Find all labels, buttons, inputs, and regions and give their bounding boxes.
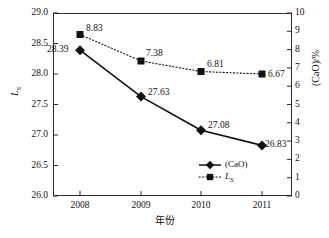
y-right-axis-title: (CaO)/% [311,50,321,86]
legend-label-ls-sub: S [230,175,234,183]
y-left-axis-title-sub: S [15,87,23,91]
legend-marker-square-icon [196,172,222,184]
left-tick-label: 28.0 [18,69,48,79]
legend-item-ls[interactable]: LS [196,171,248,184]
data-label-ls: 6.81 [207,60,224,70]
y-left-axis-title: LS [10,87,23,96]
right-tick-label: 1 [295,173,315,183]
legend-label-cao: (CaO) [225,160,248,169]
y-left-axis-title-main: L [9,90,20,96]
x-tick-label: 2008 [58,201,102,211]
data-label-ls: 6.67 [268,70,285,80]
legend-marker-diamond-icon [196,159,222,171]
data-label-cao: 27.08 [208,121,229,131]
data-label-ls: 8.83 [86,24,103,34]
data-label-cao: 28.39 [47,45,68,55]
right-tick-label: 0 [295,191,315,201]
right-tick-label: 3 [295,136,315,146]
left-tick-label: 27.5 [18,100,48,110]
left-tick-label: 26.0 [18,191,48,201]
right-tick-label: 9 [295,26,315,36]
chart-legend: (CaO) LS [196,158,248,184]
data-label-ls: 7.38 [146,49,163,59]
left-tick-label: 27.0 [18,130,48,140]
x-axis-title: 年份 [0,216,329,226]
right-tick-label: 5 [295,100,315,110]
data-label-cao: 26.83 [265,140,286,150]
right-tick-label: 2 [295,154,315,164]
plot-area [53,13,292,196]
left-tick-label: 28.5 [18,39,48,49]
x-tick-label: 2009 [119,201,163,211]
left-tick-label: 29.0 [18,8,48,18]
x-tick-label: 2011 [240,201,284,211]
x-tick-label: 2010 [179,201,223,211]
data-label-cao: 27.63 [148,88,169,98]
right-tick-label: 10 [295,8,315,18]
right-tick-label: 4 [295,118,315,128]
left-tick-label: 26.5 [18,161,48,171]
legend-label-ls: LS [225,172,234,184]
legend-item-cao[interactable]: (CaO) [196,158,248,171]
chart-figure: 29.0 28.5 28.0 27.5 27.0 26.5 26.0 10 9 … [0,0,329,238]
